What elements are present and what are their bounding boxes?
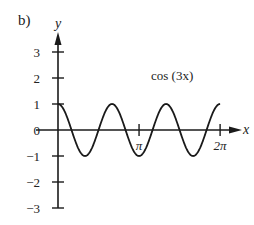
x-tick-label: π	[136, 138, 143, 153]
x-tick-label: 2π	[214, 138, 228, 153]
plot-canvas: b) 3210−1−2−3π2π cos (3x) x y	[0, 0, 254, 225]
x-axis-arrow-icon	[229, 127, 242, 134]
x-axis-label: x	[242, 122, 250, 137]
y-tick-label: 3	[34, 45, 41, 60]
y-tick-label: 1	[34, 97, 41, 112]
y-axis-label: y	[53, 16, 62, 31]
figure: b) 3210−1−2−3π2π cos (3x) x y	[0, 0, 254, 225]
axes	[36, 32, 242, 208]
function-annotation: cos (3x)	[151, 68, 193, 83]
y-axis-arrow-icon	[55, 32, 62, 45]
y-tick-label: −2	[26, 175, 40, 190]
panel-label: b)	[18, 12, 31, 29]
y-tick-label: −1	[26, 149, 40, 164]
y-tick-label: 0	[34, 123, 41, 138]
y-tick-label: 2	[34, 71, 41, 86]
y-tick-label: −3	[26, 201, 40, 216]
